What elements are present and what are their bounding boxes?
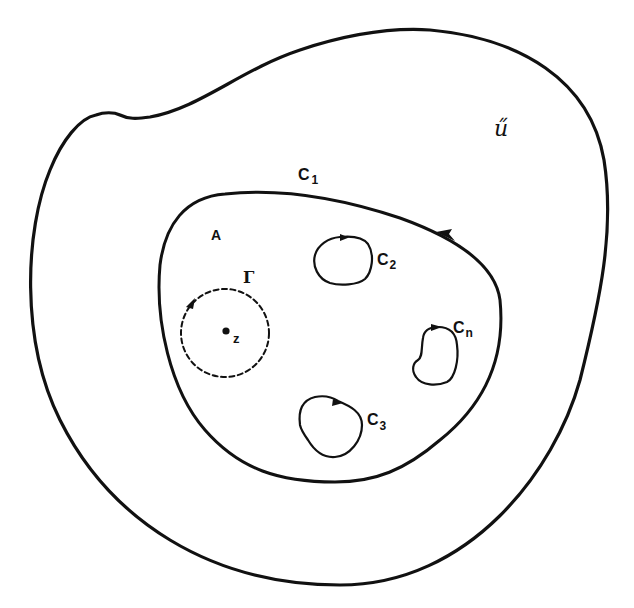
hole-c3 [300,396,362,457]
label-c2-letter: C [377,251,389,268]
label-c2-sub: 2 [390,258,397,272]
label-c1: C1 [298,166,319,187]
hole-cn [413,327,457,385]
hole-c2 [314,237,372,285]
label-cn-sub: n [466,326,473,340]
label-c2: C2 [377,251,397,272]
label-point-z: z [233,331,240,346]
label-gamma: Γ [243,268,255,287]
label-c3-letter: C [367,411,379,428]
label-outer-region: ű [494,116,508,141]
diagram-canvas: ű A C1 C2 C3 Cn Γ z [0,0,634,608]
c2-direction-arrow-icon [340,234,349,241]
label-c3-sub: 3 [380,419,387,433]
label-c1-letter: C [298,166,310,183]
outer-region-boundary [31,29,608,585]
cn-direction-arrow-icon [431,324,442,331]
label-domain-a: A [211,227,221,243]
gamma-direction-arrow-icon [186,298,195,309]
label-c3: C3 [367,411,387,433]
label-cn-letter: C [453,319,465,336]
label-c1-sub: 1 [312,173,319,187]
point-z-dot [222,327,229,334]
